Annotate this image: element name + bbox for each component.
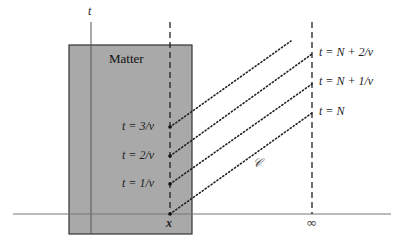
label-t-N: t = N: [319, 104, 344, 119]
infinity-label: ∞: [306, 215, 317, 230]
label-t-N-plus-2nu: t = N + 2/ν: [319, 45, 373, 60]
x-label: x: [166, 216, 172, 231]
spacetime-diagram: [0, 0, 396, 244]
label-t-3nu: t = 3/ν: [122, 119, 154, 134]
matter-region: [69, 45, 192, 234]
t-axis-label: t: [88, 4, 91, 19]
label-t-1nu: t = 1/ν: [122, 176, 154, 191]
curve-label: 𝒞: [253, 156, 262, 170]
matter-label: Matter: [109, 51, 144, 67]
label-t-2nu: t = 2/ν: [122, 148, 154, 163]
label-t-N-plus-1nu: t = N + 1/ν: [319, 74, 373, 89]
